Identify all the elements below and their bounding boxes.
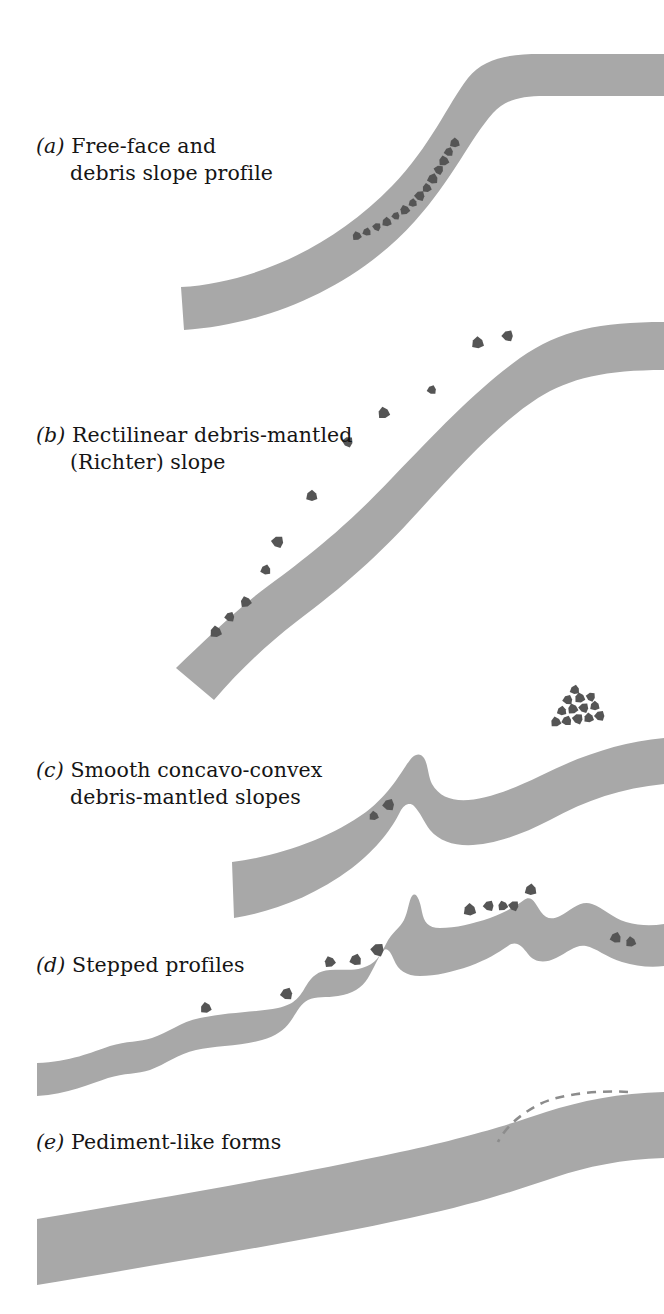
slope-profiles-svg	[0, 0, 664, 1314]
debris-clast	[483, 901, 494, 911]
caption-e-tag: (e)	[36, 1130, 64, 1154]
slope-profile-figure: (a) Free-face anddebris slope profile (b…	[0, 0, 664, 1314]
debris-clast	[379, 407, 391, 418]
debris-clast	[584, 713, 594, 723]
debris-clast	[201, 1002, 212, 1013]
debris-clast	[575, 692, 585, 702]
panel-d-group	[37, 883, 664, 1096]
debris-clast	[557, 706, 566, 715]
caption-d: (d) Stepped profiles	[36, 952, 245, 979]
caption-c: (c) Smooth concavo-convexdebris-mantled …	[36, 757, 323, 811]
caption-c-line2: debris-mantled slopes	[36, 784, 323, 811]
caption-e-line1: Pediment-like forms	[71, 1130, 281, 1154]
debris-clast	[325, 956, 336, 967]
debris-clast	[306, 490, 317, 501]
debris-clast	[472, 336, 484, 348]
caption-b-tag: (b)	[36, 423, 65, 447]
debris-clast	[572, 714, 583, 724]
debris-clast	[525, 883, 537, 895]
caption-a: (a) Free-face anddebris slope profile	[36, 133, 273, 187]
debris-clast	[551, 716, 561, 726]
debris-clast	[578, 704, 588, 713]
debris-clast	[464, 903, 476, 915]
debris-clast	[427, 385, 436, 394]
debris-clast	[370, 944, 383, 957]
debris-clast	[501, 331, 513, 342]
slope-band-b	[176, 322, 664, 700]
caption-a-tag: (a)	[36, 134, 65, 158]
slope-band-d	[37, 895, 664, 1096]
caption-d-line1: Stepped profiles	[72, 953, 245, 977]
caption-b-line2: (Richter) slope	[36, 449, 353, 476]
slope-band-e	[37, 1092, 664, 1285]
caption-c-tag: (c)	[36, 758, 64, 782]
debris-clast	[570, 685, 579, 694]
debris-clast	[568, 704, 578, 714]
debris-clast	[586, 693, 595, 702]
debris-clast	[562, 695, 572, 704]
caption-a-line1: Free-face and	[71, 134, 216, 158]
caption-a-line2: debris slope profile	[36, 160, 273, 187]
debris-clast	[224, 612, 234, 621]
caption-c-line1: Smooth concavo-convex	[70, 758, 322, 782]
caption-b-line1: Rectilinear debris-mantled	[72, 423, 353, 447]
debris-clast	[590, 701, 599, 710]
debris-clast	[349, 954, 360, 965]
caption-e: (e) Pediment-like forms	[36, 1129, 281, 1156]
panel-a-group	[181, 54, 664, 330]
caption-b: (b) Rectilinear debris-mantled(Richter) …	[36, 422, 353, 476]
debris-clast	[594, 711, 604, 721]
debris-clast	[260, 564, 270, 574]
panel-b-group	[176, 322, 664, 700]
debris-clast	[561, 716, 571, 725]
caption-d-tag: (d)	[36, 953, 65, 977]
debris-clast	[271, 537, 283, 548]
debris-clast	[498, 901, 508, 911]
panel-e-group	[37, 1092, 664, 1286]
debris-clast	[280, 988, 292, 999]
debris-group-b	[211, 331, 513, 638]
